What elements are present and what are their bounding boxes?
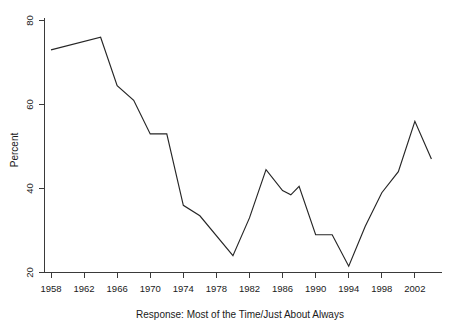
y-tick-label-20: 20 [24, 267, 35, 278]
x-axis-tick-labels: 1958196219661970197419781982198619901994… [40, 283, 425, 294]
y-tick-label-40: 40 [24, 183, 35, 194]
x-tick-label-1994: 1994 [338, 283, 359, 294]
x-tick-label-1974: 1974 [173, 283, 194, 294]
x-tick-label-1970: 1970 [140, 283, 161, 294]
x-tick-label-1966: 1966 [107, 283, 128, 294]
x-tick-label-1958: 1958 [40, 283, 61, 294]
x-tick-label-1990: 1990 [305, 283, 326, 294]
x-tick-label-1962: 1962 [74, 283, 95, 294]
plot-area [51, 37, 431, 266]
y-axis-tick-labels: 20406080 [24, 15, 35, 278]
y-axis: 20406080 Percent [9, 15, 45, 278]
y-axis-title: Percent [9, 133, 20, 168]
x-tick-label-1986: 1986 [272, 283, 293, 294]
y-tick-label-60: 60 [24, 99, 35, 110]
y-axis-ticks [39, 21, 45, 273]
x-axis-title: Response: Most of the Time/Just About Al… [136, 309, 344, 320]
line-chart: 20406080 Percent 19581962196619701974197… [0, 0, 450, 332]
x-axis-ticks [51, 273, 415, 279]
x-tick-label-2002: 2002 [404, 283, 425, 294]
x-tick-label-1978: 1978 [206, 283, 227, 294]
data-series-line [51, 37, 431, 266]
x-axis: 1958196219661970197419781982198619901994… [40, 273, 442, 321]
chart-container: 20406080 Percent 19581962196619701974197… [0, 0, 450, 332]
x-tick-label-1998: 1998 [371, 283, 392, 294]
y-tick-label-80: 80 [24, 15, 35, 26]
x-tick-label-1982: 1982 [239, 283, 260, 294]
